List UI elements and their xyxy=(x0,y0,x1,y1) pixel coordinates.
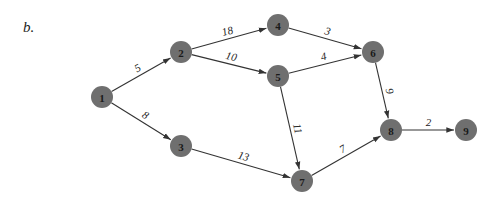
edge-1-3: 8 xyxy=(111,103,170,140)
edge-1-2: 5 xyxy=(112,58,171,92)
edge-weight-label: 8 xyxy=(140,108,151,121)
node-3: 3 xyxy=(170,135,192,157)
edge-weight-label: 2 xyxy=(426,116,432,128)
node-7: 7 xyxy=(291,170,313,192)
edge-8-9: 2 xyxy=(402,116,454,130)
edge-weight-label: 10 xyxy=(225,49,239,63)
edge-2-4: 18 xyxy=(192,23,267,49)
edge-weight-label: 3 xyxy=(322,24,332,37)
node-label: 3 xyxy=(178,141,184,153)
node-4: 4 xyxy=(267,14,289,36)
node-8: 8 xyxy=(380,119,402,141)
node-label: 9 xyxy=(463,125,469,137)
edge-2-5: 10 xyxy=(192,49,267,73)
edge-5-6: 4 xyxy=(289,50,362,74)
network-graph: 581810133411972 123456789 xyxy=(0,0,499,200)
node-1: 1 xyxy=(91,86,113,108)
edge-5-7: 11 xyxy=(280,87,305,170)
node-2: 2 xyxy=(170,41,192,63)
edge-6-8: 9 xyxy=(375,63,396,119)
node-6: 6 xyxy=(362,41,384,63)
edge-weight-label: 11 xyxy=(291,122,305,135)
node-label: 6 xyxy=(370,47,376,59)
edge-weight-label: 9 xyxy=(384,87,397,96)
node-label: 5 xyxy=(275,71,281,83)
edge-weight-label: 4 xyxy=(319,50,328,63)
edge-weight-label: 13 xyxy=(237,149,251,164)
edge-arrow-icon xyxy=(111,103,170,140)
node-label: 7 xyxy=(299,176,305,188)
edge-arrow-icon xyxy=(112,58,171,92)
edge-3-7: 13 xyxy=(192,149,291,178)
node-label: 1 xyxy=(99,92,105,104)
edge-weight-label: 7 xyxy=(337,142,348,155)
edge-weight-label: 18 xyxy=(220,23,234,38)
edge-arrow-icon xyxy=(312,136,381,176)
edges-layer: 581810133411972 xyxy=(111,23,454,177)
node-9: 9 xyxy=(455,119,477,141)
edge-weight-label: 5 xyxy=(132,61,143,74)
edge-7-8: 7 xyxy=(312,136,381,176)
node-label: 8 xyxy=(388,125,394,137)
node-label: 2 xyxy=(178,47,184,59)
node-label: 4 xyxy=(275,20,281,32)
node-5: 5 xyxy=(267,65,289,87)
edge-4-6: 3 xyxy=(289,24,362,49)
